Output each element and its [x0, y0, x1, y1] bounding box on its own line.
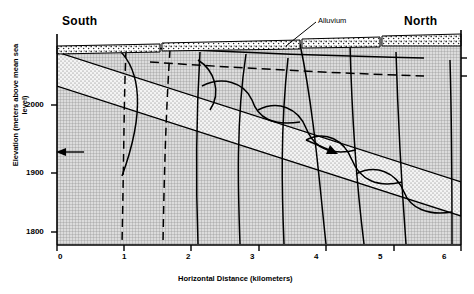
right-edge-ticks [461, 58, 467, 76]
x-axis-ticks [57, 245, 461, 251]
y-axis-ticks [51, 105, 57, 232]
section-body [55, 34, 463, 248]
cross-section-drawing [0, 0, 474, 294]
cross-section-figure: South North Alluvium Elevation (meters a… [0, 0, 474, 294]
